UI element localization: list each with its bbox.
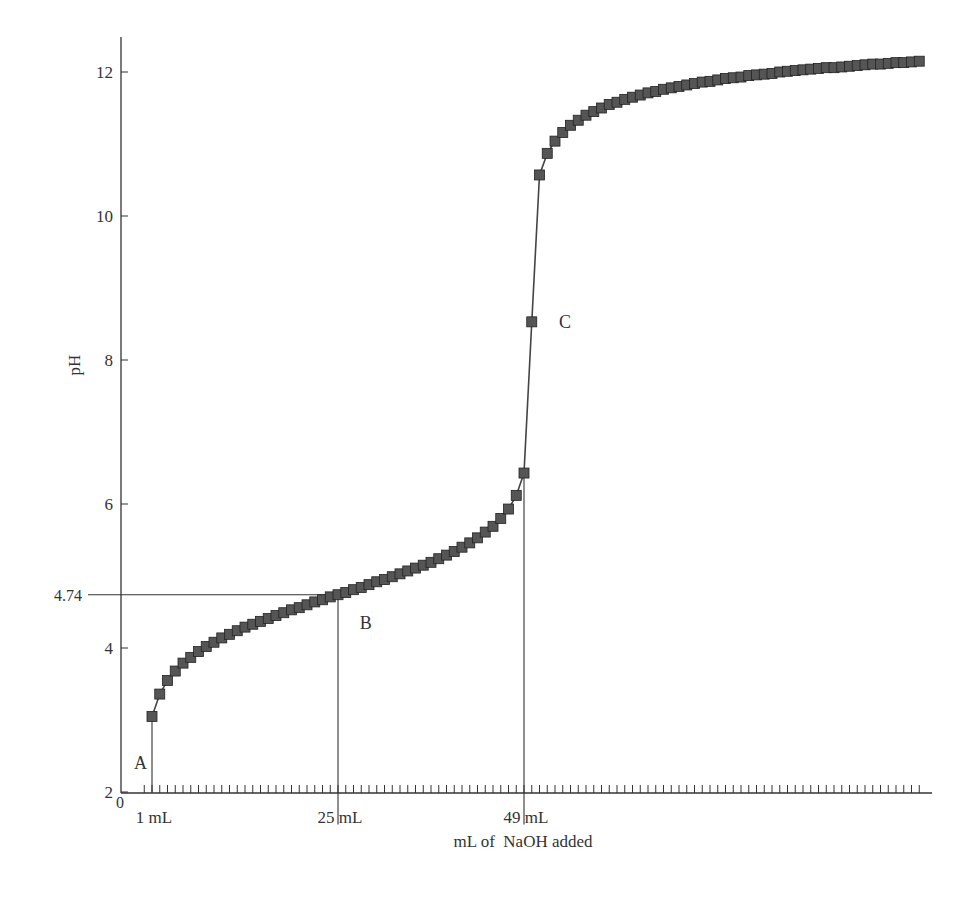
data-point-marker [527, 317, 537, 327]
y-tick-label: 8 [105, 351, 114, 370]
data-point-marker [147, 711, 157, 721]
data-point-marker [519, 468, 529, 478]
data-point-marker [542, 148, 552, 158]
y-tick-label: 10 [96, 207, 113, 226]
titration-chart: 24681012 1 mL25 mL49 mL ABC pH mL of NaO… [0, 0, 980, 897]
x-origin-label: 0 [116, 794, 124, 811]
x-ticks: 1 mL25 mL49 mL [136, 785, 919, 827]
annotations: ABC [134, 312, 571, 773]
annotation-c: C [559, 312, 571, 332]
x-tick-label: 49 mL [504, 808, 549, 827]
y-ticks: 24681012 [96, 63, 128, 802]
data-point-marker [511, 490, 521, 500]
x-tick-label: 1 mL [136, 808, 172, 827]
y-tick-label: 12 [96, 63, 113, 82]
annotation-a: A [134, 753, 147, 773]
data-point-marker [535, 170, 545, 180]
data-point-marker [163, 675, 173, 685]
x-tick-label: 25 mL [318, 808, 363, 827]
data-point-marker [496, 513, 506, 523]
data-point-marker [504, 504, 514, 514]
data-series [147, 56, 924, 721]
data-point-marker [155, 689, 165, 699]
y-tick-label: 4 [105, 639, 114, 658]
reference-lines [88, 473, 524, 824]
reference-y-label: 4.74 [54, 587, 82, 604]
x-axis-label: mL of NaOH added [453, 832, 593, 851]
data-point-marker [914, 56, 924, 66]
y-axis-label: pH [65, 355, 84, 376]
y-tick-label: 2 [105, 783, 114, 802]
annotation-b: B [360, 613, 372, 633]
y-tick-label: 6 [105, 495, 114, 514]
